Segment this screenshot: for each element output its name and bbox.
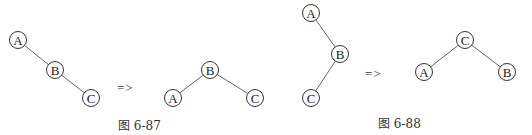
- figure-caption-6-87: 图 6-87: [118, 116, 161, 133]
- tree-node-b: B: [47, 62, 64, 79]
- tree-edge: [472, 45, 500, 67]
- tree-after-1: CAB: [416, 32, 516, 81]
- tree-edge: [431, 45, 459, 67]
- tree-before-1: ABC: [303, 5, 349, 107]
- tree-diagram-canvas: ABCBACABCCAB: [0, 0, 532, 135]
- svg-text:C: C: [461, 33, 470, 48]
- tree-node-b: B: [499, 64, 516, 81]
- tree-node-b: B: [202, 62, 219, 79]
- svg-text:C: C: [87, 91, 96, 106]
- tree-node-c: C: [457, 32, 474, 49]
- svg-text:B: B: [206, 63, 215, 78]
- tree-node-a: A: [416, 64, 433, 81]
- tree-edge: [316, 61, 336, 91]
- tree-edge: [25, 45, 49, 64]
- svg-text:B: B: [336, 47, 345, 62]
- svg-text:B: B: [503, 65, 512, 80]
- tree-before-0: ABC: [10, 32, 100, 107]
- tree-node-a: A: [165, 90, 182, 107]
- tree-edge: [180, 75, 203, 93]
- tree-edge: [217, 74, 248, 93]
- tree-node-c: C: [83, 90, 100, 107]
- svg-text:C: C: [251, 91, 260, 106]
- transform-arrow-6-87: =>: [117, 80, 134, 96]
- tree-node-b: B: [332, 46, 349, 63]
- svg-text:A: A: [13, 33, 23, 48]
- svg-text:A: A: [419, 65, 429, 80]
- svg-text:C: C: [307, 91, 316, 106]
- tree-node-c: C: [247, 90, 264, 107]
- svg-text:A: A: [168, 91, 178, 106]
- tree-node-a: A: [10, 32, 27, 49]
- tree-after-0: BAC: [165, 62, 264, 107]
- tree-node-c: C: [303, 90, 320, 107]
- tree-edge: [62, 75, 85, 93]
- svg-text:A: A: [306, 6, 316, 21]
- tree-node-a: A: [303, 5, 320, 22]
- tree-rotation-figures: ABCBACABCCAB => => 图 6-87 图 6-88: [0, 0, 532, 135]
- transform-arrow-6-88: =>: [365, 66, 382, 82]
- svg-text:B: B: [51, 63, 60, 78]
- figure-caption-6-88: 图 6-88: [378, 114, 421, 131]
- tree-edge: [316, 20, 335, 47]
